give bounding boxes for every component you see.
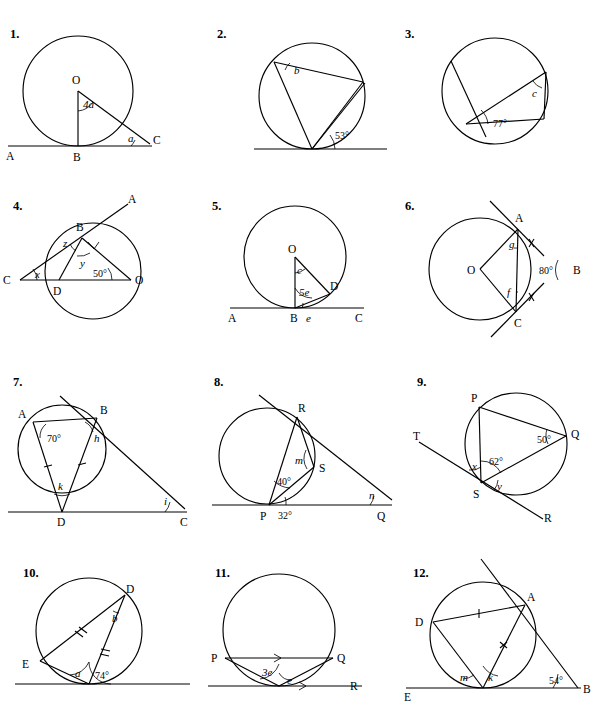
angle-label-a-1: a xyxy=(128,132,134,144)
chord-PS-9 xyxy=(479,407,481,483)
angle-label-32-8: 32° xyxy=(278,510,292,521)
angle-label-k-12: k xyxy=(488,671,494,683)
label-O-4: O xyxy=(135,274,143,286)
label-S-9: S xyxy=(473,488,479,500)
label-P-9: P xyxy=(471,392,477,404)
label-B-4: B xyxy=(76,221,84,233)
label-B-12: B xyxy=(583,683,591,695)
angle-label-e-11: e xyxy=(287,674,292,686)
angle-arc-z-4 xyxy=(70,244,76,251)
problem-2: 2. b 53° xyxy=(202,14,402,186)
label-A-1: A xyxy=(6,150,15,162)
tangent-line-3 xyxy=(451,61,486,137)
angle-arc-b-2 xyxy=(285,63,290,70)
label-A-5: A xyxy=(228,312,237,324)
label-E-10: E xyxy=(22,658,29,670)
angle-label-i-7: i xyxy=(164,495,167,507)
angle-label-50-4: 50° xyxy=(93,268,107,279)
problem-7: 7. A B C D 70° h k i xyxy=(0,362,200,534)
label-D-7: D xyxy=(57,516,65,528)
problem-9: 9. P Q T S R 50° 62° x y xyxy=(403,362,603,534)
angle-arc-50-4 xyxy=(108,268,112,280)
label-C-7: C xyxy=(180,516,188,528)
angle-arc-m-8 xyxy=(304,450,307,469)
equal-mark-BD-7 xyxy=(78,463,86,465)
label-P-8: P xyxy=(260,510,266,522)
label-E-12: E xyxy=(404,691,411,703)
angle-label-74-10: 74° xyxy=(95,670,109,681)
radius-OC-6 xyxy=(480,269,516,312)
angle-arc-70-7 xyxy=(40,424,46,438)
label-C-5: C xyxy=(355,312,363,324)
problem-5: 5. O A B C D c 5e e xyxy=(202,186,402,358)
angle-label-m-12: m xyxy=(460,671,468,683)
label-O-6: O xyxy=(467,264,475,276)
tangent-through-B-to-C-7 xyxy=(60,396,185,509)
angle-label-k-7: k xyxy=(58,480,64,492)
label-A-4: A xyxy=(128,193,137,205)
label-T-9: T xyxy=(413,430,420,442)
angle-label-54-12: 54° xyxy=(549,675,563,686)
problem-12: 12. A B D E m k 54° xyxy=(403,545,603,709)
label-D-5: D xyxy=(330,280,338,292)
equal-mark-DE-1-10 xyxy=(75,631,83,637)
angle-label-f-6: f xyxy=(507,286,512,298)
angle-label-y-4: y xyxy=(79,257,85,269)
angle-label-70-7: 70° xyxy=(47,433,61,444)
chord-SP-8 xyxy=(269,467,314,505)
angle-label-x-4: x xyxy=(34,268,40,280)
label-P-11: P xyxy=(211,652,217,664)
right-angle-marker-4 xyxy=(88,242,99,249)
angle-label-e-5: e xyxy=(306,312,311,324)
chord-D-to-C-12 xyxy=(433,622,483,688)
label-R-11: R xyxy=(350,680,358,692)
angle-label-y-9: y xyxy=(496,480,502,492)
angle-label-80-6: 80° xyxy=(539,265,553,276)
angle-label-50-9: 50° xyxy=(537,434,551,445)
angle-label-3e-11: 3e xyxy=(261,666,273,678)
angle-label-b-10: b xyxy=(112,612,118,624)
label-B-1: B xyxy=(73,151,81,163)
angle-label-62-9: 62° xyxy=(489,456,503,467)
chord-AC-6 xyxy=(516,229,518,312)
chord-top-2 xyxy=(274,62,363,82)
tangent-A-to-B-12 xyxy=(481,559,578,688)
label-D-12: D xyxy=(415,616,423,628)
angle-label-a-10: a xyxy=(75,667,81,679)
label-A-6: A xyxy=(515,212,524,224)
problem-4: 4. C A B D O x y z 50° xyxy=(0,186,200,358)
angle-label-h-7: h xyxy=(94,432,100,444)
label-C-6: C xyxy=(514,317,522,329)
label-R-9: R xyxy=(544,512,552,524)
label-A-7: A xyxy=(18,408,27,420)
chord-PQ-9 xyxy=(479,407,566,436)
problem-11: 11. P Q R 3e e xyxy=(202,545,402,709)
label-Q-11: Q xyxy=(337,652,346,664)
angle-label-c-5: c xyxy=(297,264,302,276)
label-B-5: B xyxy=(290,312,298,324)
chord-right-3 xyxy=(544,72,546,119)
chord-E-to-tangent-10 xyxy=(40,661,89,684)
label-O-5: O xyxy=(288,243,296,255)
label-B-6: B xyxy=(573,264,581,276)
problem-8: 8. R S P Q m 40° 32° n xyxy=(202,362,402,534)
angle-label-40-8: 40° xyxy=(277,476,291,487)
circle-11 xyxy=(223,574,335,686)
chord-left-2 xyxy=(274,62,312,149)
problem-1: 1. O A B C 4a a xyxy=(0,14,200,186)
chord-RP-8 xyxy=(269,417,297,505)
circle-2 xyxy=(259,43,365,149)
circle-12 xyxy=(430,582,536,688)
angle-label-5e-5: 5e xyxy=(299,286,310,298)
label-S-8: S xyxy=(319,462,325,474)
label-C-4: C xyxy=(3,274,11,286)
angle-label-g-6: g xyxy=(509,238,515,250)
angle-arc-y-4 xyxy=(77,253,90,256)
angle-label-4a-1: 4a xyxy=(83,98,95,110)
angle-label-77-3: 77° xyxy=(493,118,507,129)
label-D-10: D xyxy=(126,583,134,595)
angle-label-c-3: c xyxy=(532,87,537,99)
label-Q-8: Q xyxy=(377,510,386,522)
label-D-4: D xyxy=(53,285,61,297)
label-C-1: C xyxy=(153,134,161,146)
